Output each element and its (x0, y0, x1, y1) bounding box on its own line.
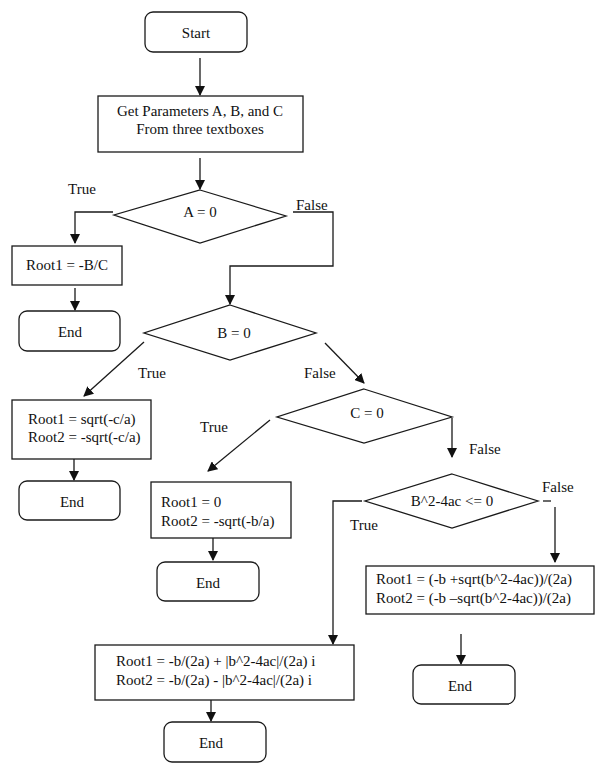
flowchart-canvas: Start Get Parameters A, B, and C From th… (0, 0, 611, 776)
b-false-label: False (304, 365, 336, 381)
end-2-label: End (60, 494, 85, 510)
get-params-line-1: Get Parameters A, B, and C (117, 103, 283, 119)
disc-false-label: False (542, 479, 574, 495)
discriminant-label: B^2-4ac <= 0 (411, 493, 493, 509)
c-true-label: True (200, 419, 228, 435)
b-true-label: True (138, 365, 166, 381)
root-linear-line-1: Root1 = -B/C (26, 257, 108, 273)
a-zero-decision: A = 0 (114, 190, 286, 243)
a-false-label: False (296, 197, 328, 213)
roots-real-line-2: Root2 = (-b –sqrt(b^2-4ac))/(2a) (376, 590, 571, 607)
b-zero-decision: B = 0 (144, 305, 316, 360)
disc-true-label: True (350, 517, 378, 533)
b-zero-label: B = 0 (217, 325, 250, 341)
roots-complex-line-1: Root1 = -b/(2a) + |b^2-4ac|/(2a) i (116, 653, 316, 670)
roots-c0-line-2: Root2 = -sqrt(-b/a) (161, 513, 274, 530)
a-zero-label: A = 0 (183, 204, 216, 220)
c-false-label: False (469, 441, 501, 457)
roots-c0-line-1: Root1 = 0 (161, 494, 221, 510)
start-terminator: Start (145, 12, 247, 52)
end-terminator-1: End (19, 311, 120, 351)
start-label: Start (182, 25, 211, 41)
end-terminator-5: End (164, 722, 266, 762)
c-zero-label: C = 0 (350, 405, 383, 421)
end-3-label: End (196, 575, 221, 591)
roots-real-process: Root1 = (-b +sqrt(b^2-4ac))/(2a) Root2 =… (366, 566, 594, 614)
get-parameters-process: Get Parameters A, B, and C From three te… (98, 96, 303, 152)
get-params-line-2: From three textboxes (136, 121, 264, 137)
end-1-label: End (58, 324, 83, 340)
c-zero-decision: C = 0 (277, 389, 452, 443)
discriminant-decision: B^2-4ac <= 0 (365, 474, 538, 528)
roots-complex-line-2: Root2 = -b/(2a) - |b^2-4ac|/(2a) i (116, 672, 312, 689)
edge-a-true (75, 212, 113, 243)
roots-real-line-1: Root1 = (-b +sqrt(b^2-4ac))/(2a) (376, 571, 572, 588)
end-terminator-2: End (19, 481, 120, 520)
roots-b0-line-2: Root2 = -sqrt(-c/a) (28, 429, 141, 446)
end-4-label: End (448, 678, 473, 694)
end-terminator-3: End (157, 562, 259, 601)
a-true-label: True (68, 181, 96, 197)
roots-c-zero-process: Root1 = 0 Root2 = -sqrt(-b/a) (151, 482, 291, 538)
roots-b0-line-1: Root1 = sqrt(-c/a) (28, 411, 136, 428)
end-5-label: End (199, 735, 224, 751)
end-terminator-4: End (413, 665, 515, 704)
root-linear-process: Root1 = -B/C (12, 246, 122, 285)
roots-complex-process: Root1 = -b/(2a) + |b^2-4ac|/(2a) i Root2… (95, 645, 354, 700)
roots-b-zero-process: Root1 = sqrt(-c/a) Root2 = -sqrt(-c/a) (12, 400, 151, 459)
